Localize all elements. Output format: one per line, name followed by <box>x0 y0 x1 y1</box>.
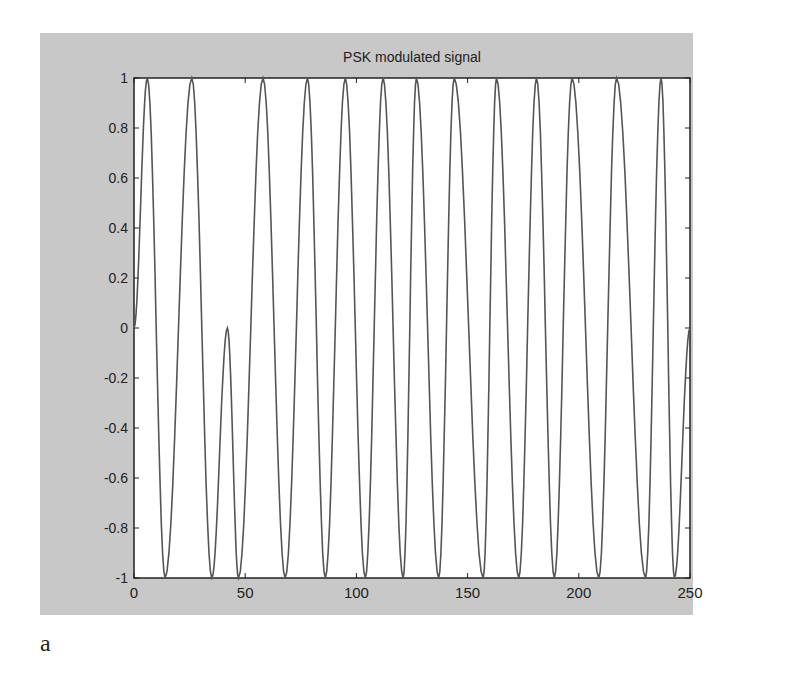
figure-caption: a <box>40 630 51 657</box>
y-tick-label: 0.4 <box>109 220 129 236</box>
x-tick-label: 0 <box>130 584 138 601</box>
y-tick-label: -0.8 <box>104 520 128 536</box>
x-tick-label: 50 <box>237 584 254 601</box>
y-tick-label: 0.8 <box>109 120 129 136</box>
chart-title: PSK modulated signal <box>343 49 481 65</box>
psk-chart: PSK modulated signal 10.80.60.40.20-0.2-… <box>0 0 802 678</box>
y-tick-label: -0.4 <box>104 420 128 436</box>
x-tick-label: 100 <box>344 584 369 601</box>
y-tick-label: 1 <box>120 70 128 86</box>
y-tick-label: 0.6 <box>109 170 129 186</box>
x-tick-label: 250 <box>677 584 702 601</box>
x-tick-label: 150 <box>455 584 480 601</box>
y-tick-label: -0.2 <box>104 370 128 386</box>
y-tick-label: 0 <box>120 320 128 336</box>
y-tick-label: 0.2 <box>109 270 129 286</box>
y-tick-label: -0.6 <box>104 470 128 486</box>
x-tick-label: 200 <box>566 584 591 601</box>
y-tick-label: -1 <box>116 570 129 586</box>
